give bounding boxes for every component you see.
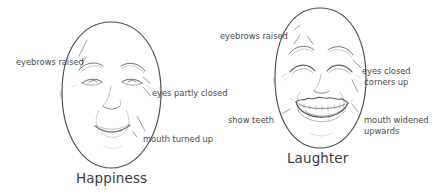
- face-happiness: [61, 22, 163, 168]
- label-laughter-show-teeth: show teeth: [228, 115, 274, 126]
- label-laughter-eyes-closed-line2: corners up: [362, 77, 411, 88]
- happiness-features: [72, 63, 151, 148]
- label-laughter-mouth-widened-line2: upwards: [364, 126, 429, 137]
- label-laughter-eyebrows-raised: eyebrows raised: [220, 31, 288, 42]
- label-happiness-eyebrows-raised: eyebrows raised: [16, 57, 84, 68]
- diagram-canvas: eyebrows raised eyes partly closed mouth…: [0, 0, 437, 194]
- label-laughter-mouth-widened-upwards: mouth widened upwards: [364, 115, 429, 136]
- label-laughter-mouth-widened-line1: mouth widened: [364, 115, 429, 126]
- label-happiness-mouth-turned-up: mouth turned up: [143, 134, 213, 145]
- caption-laughter: Laughter: [287, 150, 348, 166]
- label-laughter-eyes-closed-corners-up: eyes closed corners up: [362, 66, 411, 87]
- caption-happiness: Happiness: [76, 170, 147, 186]
- happiness-leader-lines: [79, 40, 151, 137]
- label-happiness-eyes-partly-closed: eyes partly closed: [152, 88, 227, 99]
- label-laughter-eyes-closed-line1: eyes closed: [362, 66, 411, 77]
- laughter-features: [282, 46, 360, 136]
